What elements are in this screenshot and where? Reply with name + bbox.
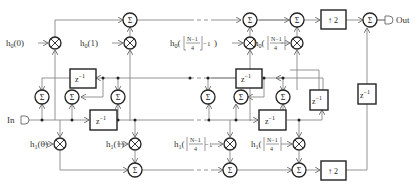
delay-block: z−1 bbox=[90, 110, 117, 130]
polyphase-diagram: Σ Σ Σ Σ Σ Σ Σ Σ Σ Σ Σ Σ Σ z−1 z−1 z−1 z−… bbox=[0, 0, 419, 189]
multiplier-node bbox=[224, 138, 236, 150]
delay-block: z−1 bbox=[259, 110, 286, 130]
svg-text:): ) bbox=[214, 38, 217, 48]
sum-node: Σ bbox=[128, 163, 142, 177]
coeff-labels-bottom: h1(0) h1(1) h1( N−1 4 −1 h1( N−1 4 bbox=[30, 137, 281, 152]
svg-text:h1(0): h1(0) bbox=[30, 139, 48, 150]
sum-node: Σ bbox=[292, 163, 306, 177]
svg-text:h0(0): h0(0) bbox=[6, 38, 24, 49]
coeff-labels-top: h0(0) h0(1) h0( N−1 4 −1 ) h0( N−1 4 bbox=[6, 36, 285, 51]
svg-text:Σ: Σ bbox=[297, 166, 302, 175]
delay-block: z−1 bbox=[358, 84, 376, 104]
svg-text:h1(: h1( bbox=[251, 139, 262, 150]
svg-text:Σ: Σ bbox=[40, 93, 45, 102]
svg-text:Σ: Σ bbox=[116, 93, 121, 102]
svg-text:h0(: h0( bbox=[254, 38, 265, 49]
sum-node: Σ bbox=[111, 90, 125, 104]
svg-text:h0(: h0( bbox=[170, 38, 181, 49]
multiplier-nodes bbox=[49, 37, 305, 150]
svg-text:Σ: Σ bbox=[248, 16, 253, 25]
multiplier-node bbox=[291, 37, 303, 49]
svg-text:Σ: Σ bbox=[206, 93, 211, 102]
sum-node: Σ bbox=[223, 163, 237, 177]
input-port: In bbox=[7, 115, 29, 125]
svg-text:4: 4 bbox=[191, 45, 194, 51]
svg-text:N−1: N−1 bbox=[190, 137, 201, 143]
delay-block: z−1 bbox=[310, 90, 328, 110]
svg-text:Σ: Σ bbox=[239, 93, 244, 102]
sum-node: Σ bbox=[276, 90, 290, 104]
svg-text:N−1: N−1 bbox=[187, 36, 198, 42]
delay-block: z−1 bbox=[236, 69, 262, 88]
svg-text:Out: Out bbox=[396, 15, 410, 25]
multiplier-node bbox=[49, 37, 61, 49]
sum-node: Σ bbox=[290, 13, 304, 27]
svg-text:h1(1): h1(1) bbox=[106, 139, 124, 150]
sum-node: Σ bbox=[243, 13, 257, 27]
svg-text:In: In bbox=[7, 115, 15, 125]
coeff-h1-floor: h1( N−1 4 bbox=[251, 137, 281, 152]
svg-text:h1(: h1( bbox=[174, 139, 185, 150]
svg-text:N−1: N−1 bbox=[267, 137, 278, 143]
sum-node: Σ bbox=[234, 90, 248, 104]
svg-text:Σ: Σ bbox=[228, 166, 233, 175]
svg-text:h0(1): h0(1) bbox=[80, 38, 98, 49]
svg-text:4: 4 bbox=[194, 146, 197, 152]
svg-text:−1: −1 bbox=[205, 141, 213, 149]
svg-text:Σ: Σ bbox=[368, 16, 373, 25]
sum-node: Σ bbox=[65, 90, 79, 104]
svg-text:Σ: Σ bbox=[128, 16, 133, 25]
coeff-h0-floor: h0( N−1 4 bbox=[254, 36, 285, 51]
delay-block: z−1 bbox=[70, 69, 96, 88]
svg-text:−1: −1 bbox=[203, 40, 211, 48]
svg-text:Σ: Σ bbox=[70, 93, 75, 102]
multiplier-node bbox=[54, 138, 66, 150]
sum-node: Σ bbox=[35, 90, 49, 104]
svg-text:Σ: Σ bbox=[281, 93, 286, 102]
coeff-h1-floor-minus1: h1( N−1 4 −1 bbox=[174, 137, 213, 152]
svg-text:N−1: N−1 bbox=[271, 36, 282, 42]
multiplier-node bbox=[293, 138, 305, 150]
upsampler-top: ↑2 bbox=[321, 10, 346, 29]
svg-text:4: 4 bbox=[270, 146, 273, 152]
output-port: Out bbox=[385, 15, 410, 25]
sum-node: Σ bbox=[363, 13, 377, 27]
svg-text:4: 4 bbox=[274, 45, 277, 51]
sum-node: Σ bbox=[201, 90, 215, 104]
svg-text:Σ: Σ bbox=[295, 16, 300, 25]
upsampler-bottom: ↑2 bbox=[321, 161, 346, 180]
multiplier-node bbox=[124, 37, 136, 49]
sum-node: Σ bbox=[123, 13, 137, 27]
multiplier-node bbox=[129, 138, 141, 150]
coeff-h0-floor-minus1: h0( N−1 4 −1 ) bbox=[170, 36, 217, 51]
svg-text:Σ: Σ bbox=[133, 166, 138, 175]
